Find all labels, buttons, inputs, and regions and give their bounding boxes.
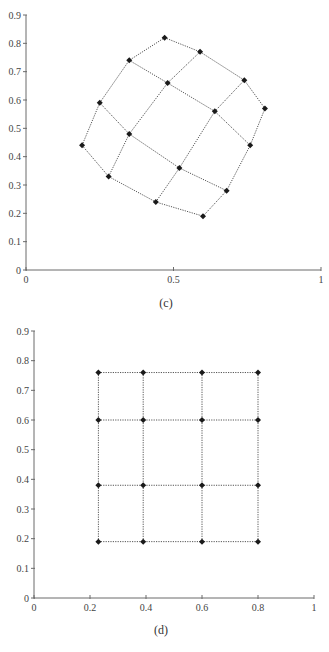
y-tick-label: 0.5 <box>9 123 22 134</box>
y-tick-label: 0.9 <box>9 10 22 21</box>
diamond-marker-icon <box>126 131 132 137</box>
x-tick-label: 0 <box>24 274 29 285</box>
diamond-marker-icon <box>95 539 101 545</box>
diamond-marker-icon <box>162 35 168 41</box>
y-tick-label: 0.8 <box>17 355 30 366</box>
chart-caption: (d) <box>154 623 168 637</box>
mesh-line-column <box>129 60 250 145</box>
y-tick-label: 0.3 <box>9 180 22 191</box>
x-tick-label: 0.2 <box>84 602 97 613</box>
mesh-lines <box>82 38 265 217</box>
x-tick-label: 0.6 <box>196 602 209 613</box>
diamond-marker-icon <box>140 417 146 423</box>
data-points <box>95 370 261 545</box>
y-tick-label: 0.1 <box>17 563 30 574</box>
diamond-marker-icon <box>199 482 205 488</box>
x-tick-label: 0.4 <box>140 602 153 613</box>
diamond-marker-icon <box>95 482 101 488</box>
diamond-marker-icon <box>199 539 205 545</box>
mesh-line-row <box>203 109 265 217</box>
diamond-marker-icon <box>140 539 146 545</box>
mesh-line-row <box>82 38 165 146</box>
y-tick-label: 0 <box>24 593 29 604</box>
y-tick-label: 0.5 <box>17 444 30 455</box>
diamond-marker-icon <box>199 370 205 376</box>
figure: 00.10.20.30.40.50.60.70.80.900.51(c) 00.… <box>0 0 329 652</box>
diamond-marker-icon <box>255 417 261 423</box>
y-tick-label: 0.9 <box>17 326 30 337</box>
mesh-line-column <box>100 103 227 191</box>
x-tick-label: 0.5 <box>167 274 180 285</box>
x-tick-label: 1 <box>312 602 317 613</box>
diamond-marker-icon <box>176 165 182 171</box>
y-tick-label: 0.2 <box>17 533 30 544</box>
chart-d-mesh-regular: 00.10.20.30.40.50.60.70.80.900.20.40.60.… <box>17 326 317 638</box>
diamond-marker-icon <box>197 49 203 55</box>
y-tick-label: 0.2 <box>9 208 22 219</box>
diamond-marker-icon <box>255 539 261 545</box>
diamond-marker-icon <box>199 417 205 423</box>
mesh-line-column <box>82 145 203 216</box>
data-points <box>79 35 268 220</box>
diamond-marker-icon <box>255 482 261 488</box>
x-tick-label: 1 <box>319 274 324 285</box>
y-tick-label: 0.4 <box>9 151 22 162</box>
y-tick-label: 0.7 <box>9 66 22 77</box>
diamond-marker-icon <box>126 57 132 63</box>
mesh-line-row <box>156 80 245 202</box>
diamond-marker-icon <box>106 174 112 180</box>
y-tick-label: 0.8 <box>9 38 22 49</box>
x-tick-label: 0.8 <box>252 602 265 613</box>
diamond-marker-icon <box>247 142 253 148</box>
chart-c-mesh-distorted: 00.10.20.30.40.50.60.70.80.900.51(c) <box>9 10 324 311</box>
diamond-marker-icon <box>95 370 101 376</box>
mesh-lines <box>98 373 258 542</box>
y-tick-label: 0.6 <box>9 95 22 106</box>
diamond-marker-icon <box>153 199 159 205</box>
diamond-marker-icon <box>255 370 261 376</box>
y-tick-label: 0.1 <box>9 236 22 247</box>
diamond-marker-icon <box>95 417 101 423</box>
y-tick-label: 0.4 <box>17 474 30 485</box>
y-tick-label: 0 <box>16 265 21 276</box>
y-tick-label: 0.3 <box>17 504 30 515</box>
diamond-marker-icon <box>140 482 146 488</box>
mesh-line-column <box>165 38 265 109</box>
x-tick-label: 0 <box>32 602 37 613</box>
y-tick-label: 0.6 <box>17 415 30 426</box>
diamond-marker-icon <box>140 370 146 376</box>
y-tick-label: 0.7 <box>17 385 30 396</box>
chart-caption: (c) <box>159 296 172 310</box>
